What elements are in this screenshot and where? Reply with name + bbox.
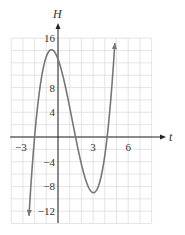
y-axis-label: H <box>52 7 63 21</box>
x-axis-arrow-icon <box>160 135 166 140</box>
function-curve <box>29 43 115 216</box>
y-tick-label: −8 <box>43 180 55 192</box>
y-tick-label: 4 <box>50 106 56 118</box>
axes <box>10 23 166 223</box>
x-tick-label: 3 <box>90 141 96 153</box>
y-tick-label: 16 <box>44 32 56 44</box>
x-tick-label: 6 <box>125 141 131 153</box>
cubic-graph: −3361684−4−8−12 t H <box>0 0 185 235</box>
grid <box>11 38 151 223</box>
y-tick-label: −4 <box>43 156 55 168</box>
curve-arrow-left-icon <box>27 210 32 216</box>
y-tick-label: −12 <box>38 205 55 217</box>
y-axis-arrow-icon <box>56 23 61 29</box>
x-axis-label: t <box>169 130 173 144</box>
y-tick-label: 8 <box>50 82 56 94</box>
x-tick-label: −3 <box>15 141 27 153</box>
curve-arrows <box>27 43 117 216</box>
